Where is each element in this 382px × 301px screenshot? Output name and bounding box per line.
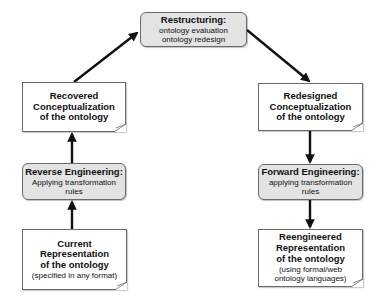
recovered-line-1: Recovered bbox=[50, 91, 99, 102]
reengineered-representation-box: Reengineered Representation of the ontol… bbox=[258, 229, 363, 287]
arrow-recovered-to-restructuring bbox=[74, 33, 137, 82]
recovered-conceptualization-box: Recovered Conceptualization of the ontol… bbox=[22, 82, 126, 132]
reverse-engineering-box: Reverse Engineering: Applying transforma… bbox=[22, 163, 126, 200]
current-representation-line-1: Current Representation bbox=[23, 239, 126, 261]
reverse-engineering-line-2: rules bbox=[65, 187, 82, 196]
reverse-engineering-line-1: Applying transformation bbox=[32, 178, 116, 187]
page-fold-icon bbox=[351, 279, 363, 287]
restructuring-title: Restructuring: bbox=[161, 15, 226, 26]
current-representation-note: (specified in any format) bbox=[32, 271, 117, 280]
page-fold-icon bbox=[115, 282, 127, 290]
reengineered-note-2: ontology languages) bbox=[274, 274, 346, 283]
forward-engineering-line-1: applying transformation bbox=[269, 178, 352, 187]
redesigned-line-3: of the ontology bbox=[276, 112, 345, 123]
forward-engineering-line-2: rules bbox=[302, 187, 319, 196]
current-representation-box: Current Representation of the ontology (… bbox=[22, 229, 127, 290]
redesigned-line-1: Redesigned bbox=[284, 91, 338, 102]
reengineered-note-1: (using formal/web bbox=[279, 265, 342, 274]
restructuring-box: Restructuring: ontology evaluation ontol… bbox=[140, 12, 247, 47]
restructuring-line-1: ontology evaluation bbox=[159, 26, 228, 35]
recovered-line-3: of the ontology bbox=[40, 112, 109, 123]
reengineering-diagram: Restructuring: ontology evaluation ontol… bbox=[0, 0, 382, 301]
page-fold-icon bbox=[351, 123, 363, 131]
forward-engineering-box: Forward Engineering: applying transforma… bbox=[258, 164, 363, 200]
current-representation-line-2: of the ontology bbox=[40, 260, 109, 271]
page-fold-icon bbox=[114, 124, 126, 132]
restructuring-line-2: ontology redesign bbox=[162, 35, 225, 44]
reverse-engineering-title: Reverse Engineering: bbox=[25, 167, 123, 178]
redesigned-conceptualization-box: Redesigned Conceptualization of the onto… bbox=[258, 83, 363, 131]
reengineered-line-3: of the ontology bbox=[276, 254, 345, 265]
arrow-restructuring-to-redesigned bbox=[247, 30, 309, 81]
forward-engineering-title: Forward Engineering: bbox=[261, 167, 359, 178]
